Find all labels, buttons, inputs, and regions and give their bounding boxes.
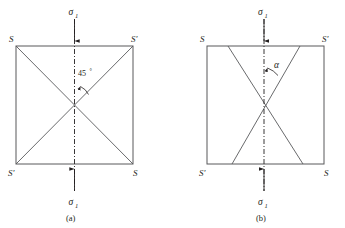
corner-label-b-bottom-left: S' — [199, 168, 207, 178]
corner-label-b-top-right: S' — [322, 34, 330, 44]
shear-plane-b-2 — [232, 46, 300, 164]
load-label-bottom-a: σ — [69, 197, 74, 207]
corner-label-a-top-right: S' — [131, 34, 139, 44]
corner-label-a-top-left: S — [9, 34, 14, 44]
angle-arc-a — [81, 87, 89, 95]
load-label-top-b: σ — [258, 7, 263, 17]
load-label-bottom-b: σ — [258, 197, 263, 207]
corner-label-b-bottom-right: S — [324, 168, 329, 178]
angle-label-b: α — [274, 60, 280, 70]
caption-a: (a) — [66, 213, 76, 223]
load-label-top-a: σ — [69, 7, 74, 17]
panel-a: 45 ° σ 1 σ 1 S S' S' S (a) — [8, 7, 139, 223]
corner-label-a-bottom-left: S' — [8, 168, 16, 178]
caption-b: (b) — [256, 213, 266, 223]
figure-container: 45 ° σ 1 σ 1 S S' S' S (a) — [0, 0, 345, 228]
load-label-bottom-sub-b: 1 — [265, 202, 268, 209]
load-label-top-sub-b: 1 — [265, 12, 268, 19]
corner-label-a-bottom-right: S — [133, 168, 138, 178]
mechanics-diagram: 45 ° σ 1 σ 1 S S' S' S (a) — [0, 0, 345, 228]
angle-degree-symbol-a: ° — [90, 68, 93, 74]
load-label-top-sub-a: 1 — [75, 12, 78, 19]
angle-label-a: 45 — [78, 69, 86, 78]
panel-b: α σ 1 σ 1 S S' S' S (b) — [199, 7, 330, 223]
load-label-bottom-sub-a: 1 — [75, 202, 78, 209]
corner-label-b-top-left: S — [200, 34, 205, 44]
